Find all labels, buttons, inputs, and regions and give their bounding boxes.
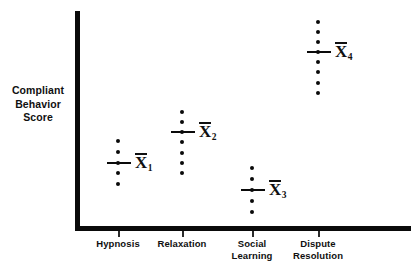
mean-marker-line-2 — [171, 131, 195, 133]
y-axis-title-line-1: Compliant — [4, 84, 72, 98]
data-point — [180, 140, 184, 144]
data-point — [116, 139, 120, 143]
data-point — [250, 177, 254, 181]
mean-label-3: X3 — [269, 181, 287, 201]
data-point — [116, 182, 120, 186]
dot-strip-chart: Compliant Behavior Score Hypnosis Relaxa… — [0, 0, 420, 280]
mean-label-1: X1 — [135, 154, 153, 174]
mean-label-4: X4 — [335, 43, 353, 63]
mean-subscript-3: 3 — [282, 190, 287, 200]
data-point — [316, 70, 320, 74]
y-axis-title: Compliant Behavior Score — [4, 84, 72, 125]
x-axis-label-dispute-resolution: Dispute Resolution — [270, 238, 366, 261]
mean-symbol-4: X — [335, 43, 347, 60]
data-point — [180, 120, 184, 124]
mean-label-2: X2 — [199, 123, 217, 143]
data-point — [180, 161, 184, 165]
x-axis-label-dispute-resolution-line-2: Resolution — [270, 250, 366, 262]
mean-marker-line-4 — [307, 51, 331, 53]
data-point — [316, 20, 320, 24]
y-axis-title-line-3: Score — [4, 111, 72, 125]
y-axis-line — [75, 11, 80, 230]
data-point — [180, 110, 184, 114]
data-point — [316, 40, 320, 44]
y-axis-title-line-2: Behavior — [4, 98, 72, 112]
data-point — [316, 30, 320, 34]
mean-symbol-2: X — [199, 123, 211, 140]
data-point — [116, 150, 120, 154]
x-axis-tick-social-learning — [252, 231, 254, 237]
mean-subscript-2: 2 — [212, 132, 217, 142]
data-point — [180, 171, 184, 175]
mean-symbol-1: X — [135, 154, 147, 171]
data-point — [250, 199, 254, 203]
mean-marker-line-3 — [241, 189, 265, 191]
data-point — [316, 81, 320, 85]
data-point — [250, 210, 254, 214]
x-axis-label-dispute-resolution-line-1: Dispute — [270, 238, 366, 250]
data-point — [316, 60, 320, 64]
data-point — [116, 171, 120, 175]
x-axis-tick-hypnosis — [118, 231, 120, 237]
data-point — [316, 91, 320, 95]
x-axis-tick-relaxation — [182, 231, 184, 237]
x-axis-tick-dispute-resolution — [318, 231, 320, 237]
mean-subscript-4: 4 — [348, 52, 353, 62]
mean-marker-line-1 — [107, 162, 131, 164]
x-axis-line — [75, 226, 411, 231]
mean-subscript-1: 1 — [148, 163, 153, 173]
mean-symbol-3: X — [269, 181, 281, 198]
data-point — [250, 166, 254, 170]
data-point — [180, 151, 184, 155]
